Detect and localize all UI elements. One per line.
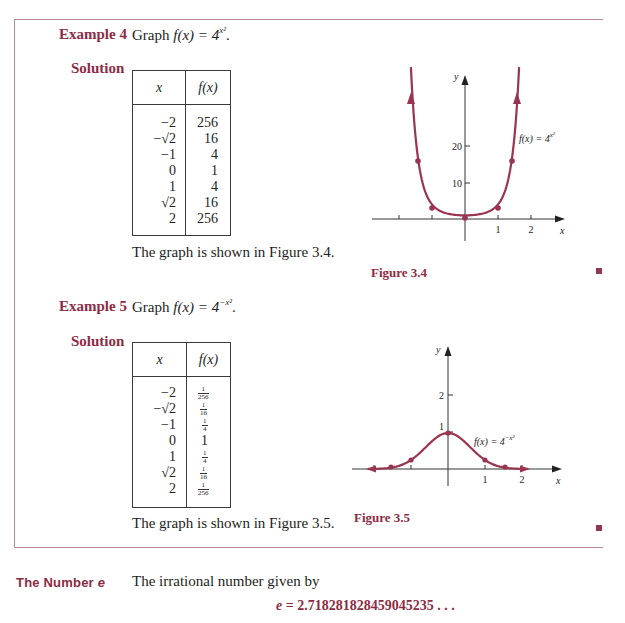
x-tick-2: 2 [529,224,534,235]
x-value: 1 [169,449,176,465]
example-5-solution-label: Solution [71,333,124,350]
example-4-solution-label: Solution [71,60,124,77]
function-exponent: x² [219,25,226,35]
table-row: 2 1256 [133,481,230,497]
e-equation: e = 2.718281828459045235 . . . [276,598,455,614]
figure-3-4-graph: 1 2 x 10 20 y f(x) = 4x² [340,60,625,290]
fx-value: 1 [211,163,218,179]
fx-fraction: 1256 [198,482,209,497]
x-value: −2 [161,385,176,401]
example-5-note: The graph is shown in Figure 3.5. [132,515,334,532]
table-row: −1 14 [133,417,230,433]
table-row: −2 256 [133,115,230,131]
fx-value: 256 [197,115,218,131]
e-value: = 2.718281828459045235 . . . [282,598,454,613]
x-value: √2 [161,195,176,211]
table-row: 2 256 [133,211,230,227]
table-row: √2 116 [133,465,230,481]
x-tick-1: 1 [496,224,501,235]
example-4-value-table: x f(x) −2 256 −√2 16 −1 4 0 1 1 4 √2 16 … [132,70,231,236]
x-axis-arrow-icon [552,466,562,473]
x-tick-2: 2 [520,474,525,485]
prompt-prefix: Graph [132,299,173,315]
x-value: 2 [169,211,176,227]
x-value: 0 [169,433,176,449]
fx-fraction: 116 [200,402,207,417]
x-value: −√2 [153,401,176,417]
fx-value: 4 [211,179,218,195]
x-value: −√2 [153,131,176,147]
example-5-label: Example 5 [59,298,127,315]
fx-value: 16 [204,195,218,211]
prompt-period: . [232,299,236,315]
fx-fraction: 14 [202,418,208,433]
example-5-end-mark [596,525,602,531]
fx-fraction: 116 [200,466,207,481]
x-value: −1 [161,147,176,163]
table-row: 1 4 [133,179,230,195]
heading-variable-e: e [98,575,105,590]
fx-value: 16 [204,131,218,147]
table-row: −√2 16 [133,131,230,147]
curve-left-arrow-icon [407,92,415,104]
curve-right-arrow-icon [513,92,521,104]
x-axis-label: x [559,225,565,236]
example-4-label: Example 4 [59,26,127,43]
curve-left-arrow-icon [366,466,376,473]
x-value: √2 [161,465,176,481]
table-header-x: x [133,71,185,104]
example-4-prompt: Graph f(x) = 4x². [132,25,230,44]
function-expression: f(x) = 4 [173,27,219,43]
example-box-left-border [14,19,15,547]
example-box-top-border [14,19,603,20]
table-row: −1 4 [133,147,230,163]
x-value: 0 [169,163,176,179]
example-5-prompt: Graph f(x) = 4−x². [132,297,236,316]
y-tick-10: 10 [452,178,462,189]
table-row: −√2 116 [133,401,230,417]
table-row: 0 1 [133,163,230,179]
fx-fraction: 14 [202,450,208,465]
example-5-value-table: x f(x) −2 1256 −√2 116 −1 14 0 1 1 14 √2… [132,342,231,508]
table-header-fx: f(x) [186,71,230,104]
example-4-end-mark [596,268,602,274]
number-e-description: The irrational number given by [132,573,319,590]
curve-right-arrow-icon [520,466,530,473]
x-tick-1: 1 [483,474,488,485]
y-tick-2: 2 [439,390,444,401]
prompt-period: . [226,27,230,43]
x-value: 1 [169,179,176,195]
y-axis-label: y [435,344,441,355]
fx-fraction: 1256 [198,386,209,401]
fx-value: 1 [201,433,208,449]
table-row: 1 14 [133,449,230,465]
section-heading-number-e: The Number e [16,575,105,590]
y-tick-1: 1 [439,421,444,432]
function-exponent: −x² [219,297,232,307]
figure-3-5-caption: Figure 3.5 [354,510,410,526]
fx-value: 256 [197,211,218,227]
figure-3-4-caption: Figure 3.4 [371,265,427,281]
fx-value: 4 [211,147,218,163]
table-header-x: x [133,343,186,376]
table-row: √2 16 [133,195,230,211]
table-row: −2 1256 [133,385,230,401]
y-axis-arrow-icon [462,75,469,85]
graph-function-label: f(x) = 4x² [519,131,556,145]
example-4-note: The graph is shown in Figure 3.4. [132,244,334,261]
x-value: −1 [161,417,176,433]
x-value: 2 [169,481,176,497]
function-expression: f(x) = 4 [173,299,219,315]
graph-function-label: f(x) = 4−x² [474,434,515,448]
x-axis-arrow-icon [555,216,565,223]
table-header-fx: f(x) [187,343,230,376]
y-tick-20: 20 [452,141,462,152]
example-box-bottom-border [14,547,603,548]
x-value: −2 [161,115,176,131]
y-axis-arrow-icon [445,346,452,356]
x-axis-label: x [555,475,561,486]
prompt-prefix: Graph [132,27,173,43]
table-row: 0 1 [133,433,230,449]
y-axis-label: y [453,71,459,82]
figure-3-5-graph: 1 2 x 2 1 y f(x) = 4−x² [340,330,625,540]
